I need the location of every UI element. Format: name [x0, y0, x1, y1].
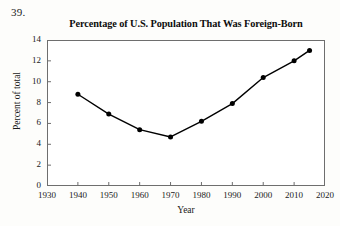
y-tick-label: 12: [15, 55, 41, 65]
data-point: [292, 58, 297, 63]
y-tick-label: 6: [15, 117, 41, 127]
data-point: [75, 92, 80, 97]
y-tick-label: 10: [15, 76, 41, 86]
data-point: [307, 48, 312, 53]
data-point: [261, 75, 266, 80]
y-tick-label: 4: [15, 138, 41, 148]
axis-ticks: [47, 40, 325, 186]
y-tick-label: 0: [15, 180, 41, 190]
y-tick-label: 14: [15, 34, 41, 44]
data-point: [199, 119, 204, 124]
data-point: [106, 112, 111, 117]
x-tick-label: 2020: [305, 190, 340, 200]
x-axis-label: Year: [47, 205, 325, 215]
y-tick-label: 8: [15, 97, 41, 107]
y-tick-label: 2: [15, 159, 41, 169]
figure-page: 39. Percentage of U.S. Population That W…: [0, 0, 340, 226]
chart-title: Percentage of U.S. Population That Was F…: [47, 18, 325, 29]
plot-area: [47, 40, 325, 186]
data-point: [137, 127, 142, 132]
data-point: [168, 134, 173, 139]
chart-figure: Percentage of U.S. Population That Was F…: [0, 0, 340, 226]
data-point: [230, 101, 235, 106]
data-line: [78, 50, 310, 137]
